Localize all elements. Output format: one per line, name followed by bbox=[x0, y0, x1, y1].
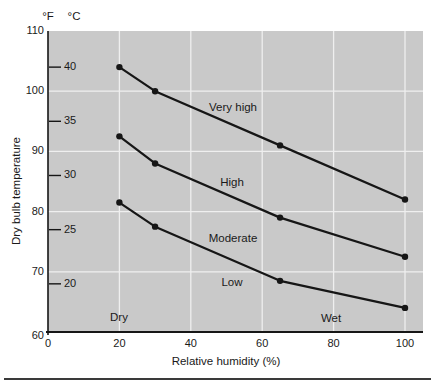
x-tick-label-20: 20 bbox=[102, 337, 136, 350]
x-tick-label-60: 60 bbox=[245, 337, 279, 350]
data-point-moderate-boundary-100 bbox=[402, 305, 408, 311]
c-tick-label-20: 20 bbox=[64, 277, 88, 290]
x-tick-label-80: 80 bbox=[317, 337, 351, 350]
x-axis-title: Relative humidity (%) bbox=[125, 355, 327, 368]
data-point-moderate-boundary-30 bbox=[152, 223, 158, 229]
region-label-dry: Dry bbox=[110, 311, 128, 324]
heat-stress-chart-figure: °F °C 11010090807060 4035302520 02040608… bbox=[0, 0, 434, 385]
zone-label-low: Low bbox=[221, 276, 242, 289]
data-point-moderate-boundary-20 bbox=[116, 199, 122, 205]
data-point-very-high-boundary-100 bbox=[402, 196, 408, 202]
f-tick-label-70: 70 bbox=[14, 265, 44, 278]
data-point-very-high-boundary-30 bbox=[152, 88, 158, 94]
zone-label-very-high: Very high bbox=[209, 101, 257, 114]
data-point-very-high-boundary-65 bbox=[277, 142, 283, 148]
y-axis-title: Dry bulb temperature bbox=[10, 137, 23, 245]
zone-label-moderate: Moderate bbox=[209, 232, 258, 245]
f-tick-label-110: 110 bbox=[14, 24, 44, 37]
x-tick-label-0: 0 bbox=[31, 337, 65, 350]
data-point-moderate-boundary-65 bbox=[277, 278, 283, 284]
region-label-wet: Wet bbox=[321, 312, 341, 325]
x-tick-label-40: 40 bbox=[174, 337, 208, 350]
zone-label-high: High bbox=[220, 176, 244, 189]
figure-bottom-rule bbox=[4, 378, 431, 380]
f-tick-label-100: 100 bbox=[14, 84, 44, 97]
data-point-high-boundary-30 bbox=[152, 160, 158, 166]
x-tick-label-100: 100 bbox=[388, 337, 422, 350]
data-point-very-high-boundary-20 bbox=[116, 64, 122, 70]
data-point-high-boundary-65 bbox=[277, 214, 283, 220]
chart-canvas bbox=[0, 0, 434, 385]
c-tick-label-35: 35 bbox=[64, 114, 88, 127]
c-tick-label-40: 40 bbox=[64, 60, 88, 73]
data-point-high-boundary-20 bbox=[116, 133, 122, 139]
data-point-high-boundary-100 bbox=[402, 254, 408, 260]
c-tick-label-30: 30 bbox=[64, 168, 88, 181]
c-tick-label-25: 25 bbox=[64, 223, 88, 236]
